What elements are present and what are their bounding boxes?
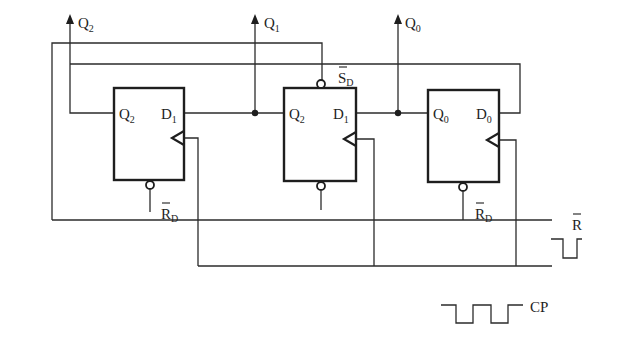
flip-flop-1: Q2 D1 RD [114, 88, 184, 224]
circuit-svg: Q2 Q1 Q0 Q2 D1 RD Q2 D1 SD Q0 D0 RD R [0, 0, 618, 352]
q2-arrow-icon [66, 14, 74, 24]
reset-waveform-icon [551, 239, 582, 258]
junction-dot-q1 [252, 110, 258, 116]
ff1-clock-wire [184, 138, 198, 266]
junction-dot-q0 [395, 110, 401, 116]
q1-arrow-icon [251, 14, 259, 24]
clock-signal: CP [441, 299, 548, 323]
q0-arrow-icon [394, 14, 402, 24]
circuit-diagram: Q2 Q1 Q0 Q2 D1 RD Q2 D1 SD Q0 D0 RD R [0, 0, 618, 352]
q0-output-label: Q0 [405, 15, 421, 34]
clock-signal-label: CP [530, 299, 548, 315]
set-bubble-icon [317, 80, 325, 88]
ff2-set-label: SD [338, 70, 354, 88]
q2-output-wire [70, 22, 114, 113]
flip-flop-2: Q2 D1 SD [284, 67, 356, 190]
reset-bubble-icon [146, 181, 154, 189]
reset-signal-label: R [572, 217, 582, 233]
reset-signal: R [551, 214, 582, 258]
ff3-clock-wire [499, 140, 516, 266]
clock-waveform-icon [441, 305, 523, 323]
ff1-reset-label: RD [161, 206, 178, 224]
reset-bubble-icon [459, 183, 467, 191]
sd-set-wire [52, 43, 322, 220]
q1-output-label: Q1 [264, 15, 280, 34]
q2-output-label: Q2 [78, 15, 94, 34]
reset-bubble-icon [317, 182, 325, 190]
ff3-reset-label: RD [475, 206, 492, 224]
ff2-clock-wire [356, 139, 374, 266]
